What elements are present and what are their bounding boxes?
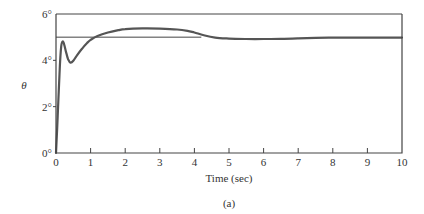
y-tick-label: 2° [42,101,52,113]
figure-caption: (a) [223,197,236,210]
y-tick-label: 6° [42,8,52,20]
x-tick-label: 7 [295,156,301,168]
line-chart: 0°2°4°6° 012345678910 θ Time (sec) (a) [0,0,424,214]
x-tick-label: 1 [88,156,94,168]
axes-frame [56,14,402,153]
y-tick-label: 4° [42,54,52,66]
theta-curve [56,28,402,153]
axis-ticks [53,60,367,153]
x-tick-label: 3 [157,156,163,168]
x-tick-label: 8 [330,156,336,168]
x-tick-label: 6 [261,156,267,168]
x-axis-title: Time (sec) [206,172,253,185]
x-tick-label: 10 [397,156,409,168]
x-tick-label: 5 [226,156,232,168]
y-tick-label: 0° [42,147,52,159]
x-tick-label: 4 [192,156,198,168]
y-axis-title: θ [21,79,27,91]
x-tick-labels: 012345678910 [53,156,408,168]
x-tick-label: 9 [365,156,371,168]
y-tick-labels: 0°2°4°6° [42,8,52,159]
x-tick-label: 0 [53,156,59,168]
x-tick-label: 2 [122,156,128,168]
